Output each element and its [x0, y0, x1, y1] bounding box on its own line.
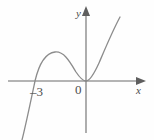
graph-figure: y x 0 –3 — [0, 0, 154, 140]
coordinate-plane-svg — [0, 0, 154, 140]
origin-label: 0 — [75, 83, 82, 96]
x-axis-label: x — [136, 85, 141, 96]
y-axis-arrowhead — [82, 6, 90, 16]
cubic-curve — [22, 17, 120, 140]
y-axis-label: y — [76, 8, 81, 19]
x-tick-label-minus-3: –3 — [30, 85, 43, 98]
